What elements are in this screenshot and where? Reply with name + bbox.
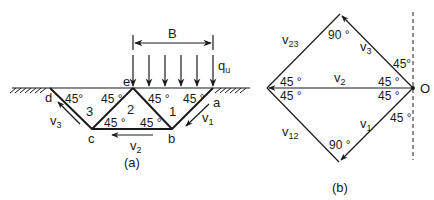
velocity-v3-label: v3 [50,113,62,130]
load-label: qu [218,58,230,75]
angle-d: 45° [65,92,83,106]
angle-o-v3-dash: 45° [393,57,411,71]
point-d-label: d [45,90,52,105]
figure-b: O v23 v3 v2 v12 v1 90 ° 90 ° 45 ° 45 ° 4… [267,12,430,195]
v23-label: v23 [282,32,299,49]
origin-label: O [420,81,430,96]
figure-a: B qu e d c b a 3 2 1 45° 45 ° 45 ° 45 ° … [10,26,250,170]
angle-o-upper: 45 ° [378,75,400,89]
ground-hatch-left [10,88,46,93]
v2-label: v2 [334,70,346,87]
velocity-v2-label: v2 [130,138,142,155]
angle-bottom: 90 ° [329,138,351,152]
v3-label: v3 [360,39,372,56]
angle-o-v1-dash: 45 ° [390,111,412,125]
v12-label: v12 [282,124,299,141]
zone-1-label: 1 [169,104,176,119]
point-e-label: e [123,74,130,89]
origin-point [411,86,415,90]
angle-left-lower: 45 ° [280,89,302,103]
velocity-v1-label: v1 [202,110,214,127]
point-b-label: b [168,131,175,146]
angle-left-upper: 45 ° [280,75,302,89]
point-a-label: a [213,95,221,110]
angle-o-lower: 45 ° [378,89,400,103]
point-c-label: c [88,131,95,146]
width-label: B [168,26,177,41]
ground-hatch-right [215,88,246,93]
v1-label: v1 [360,116,372,133]
angle-a: 45 ° [183,92,205,106]
v23-line [267,14,340,88]
failure-mechanism-figure: B qu e d c b a 3 2 1 45° 45 ° 45 ° 45 ° … [0,0,434,200]
angle-e-right: 45 ° [148,92,170,106]
load-arrows [133,55,213,86]
angle-e-left: 45 ° [101,92,123,106]
zone-3-label: 3 [86,104,93,119]
zone-2-label: 2 [127,102,134,117]
angle-b: 45 ° [140,116,162,130]
caption-a: (a) [124,155,140,170]
caption-b: (b) [332,180,348,195]
angle-top: 90 ° [328,28,350,42]
angle-c: 45 ° [104,116,126,130]
